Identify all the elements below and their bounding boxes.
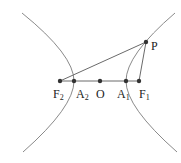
label-o: O (96, 87, 105, 101)
hyperbola-left-branch (22, 13, 74, 152)
hyperbola-diagram: P F2 A2 O A1 F1 (0, 0, 181, 163)
label-p: P (151, 39, 158, 53)
point-o (98, 79, 102, 83)
label-a1: A1 (117, 87, 130, 102)
point-p (144, 40, 148, 44)
point-a1 (124, 79, 128, 83)
point-a2 (72, 79, 76, 83)
point-f1 (137, 79, 141, 83)
label-f2: F2 (53, 87, 64, 102)
label-a2: A2 (76, 87, 89, 102)
hyperbola-right-branch (126, 13, 177, 152)
point-f2 (58, 79, 62, 83)
label-f1: F1 (139, 87, 150, 102)
segment-f2-p (60, 42, 146, 81)
